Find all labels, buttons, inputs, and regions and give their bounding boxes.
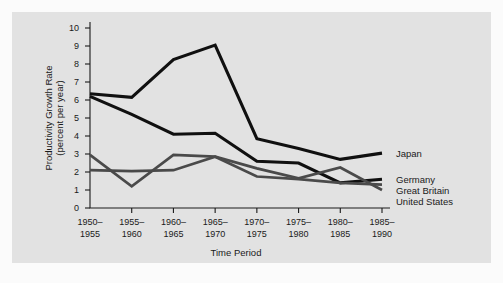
y-axis-title-line1: Productivity Growth Rate (43, 65, 54, 170)
x-axis-tick-label-start: 1980– (328, 217, 353, 227)
x-axis-tick-label-start: 1975– (286, 217, 311, 227)
x-axis-tick-label-start: 1950– (77, 217, 102, 227)
y-axis-tick-label: 10 (69, 23, 79, 33)
line-chart: 012345678910 1950–19551955–19601960–1965… (0, 0, 503, 283)
y-axis-tick-label: 2 (74, 167, 79, 177)
y-axis-tick-label: 9 (74, 41, 79, 51)
series-end-labels: JapanGermanyGreat BritainUnited States (396, 148, 453, 207)
x-axis-tick-label-end: 1985 (330, 229, 350, 239)
y-axis-tick-label: 3 (74, 149, 79, 159)
x-axis-title: Time Period (211, 247, 262, 258)
y-axis-tick-label: 0 (74, 203, 79, 213)
x-axis-tick-label-start: 1955– (119, 217, 144, 227)
y-axis-tick-label: 7 (74, 77, 79, 87)
x-axis-tick-label-end: 1970 (205, 229, 225, 239)
y-axis-title-line2: (percent per year) (54, 80, 65, 156)
x-axis-tick-labels: 1950–19551955–19601960–19651965–19701970… (77, 217, 394, 239)
x-axis-tick-label-start: 1960– (161, 217, 186, 227)
y-axis-tick-label: 5 (74, 113, 79, 123)
y-axis-tick-label: 4 (74, 131, 79, 141)
x-axis-tick-label-end: 1955 (80, 229, 100, 239)
x-axis-tick-label-start: 1985– (369, 217, 394, 227)
y-axis-tick-labels: 012345678910 (69, 23, 79, 213)
x-axis-tick-label-start: 1970– (244, 217, 269, 227)
y-axis-tick-label: 8 (74, 59, 79, 69)
y-axis-tick-marks (85, 28, 90, 208)
y-axis-tick-label: 6 (74, 95, 79, 105)
x-axis-tick-label-start: 1965– (203, 217, 228, 227)
x-axis-tick-label-end: 1975 (247, 229, 267, 239)
y-axis-tick-label: 1 (74, 185, 79, 195)
x-axis-tick-label-end: 1960 (122, 229, 142, 239)
x-axis-tick-label-end: 1965 (163, 229, 183, 239)
series-label-united-states: United States (396, 196, 453, 207)
x-axis-tick-label-end: 1990 (372, 229, 392, 239)
data-series-group (90, 45, 382, 190)
series-label-germany: Germany (396, 174, 435, 185)
series-line-japan (90, 45, 382, 159)
x-axis-tick-marks (132, 208, 382, 213)
x-axis-tick-label-end: 1980 (289, 229, 309, 239)
chart-figure: 012345678910 1950–19551955–19601960–1965… (0, 0, 503, 283)
series-label-great-britain: Great Britain (396, 185, 449, 196)
series-label-japan: Japan (396, 148, 422, 159)
